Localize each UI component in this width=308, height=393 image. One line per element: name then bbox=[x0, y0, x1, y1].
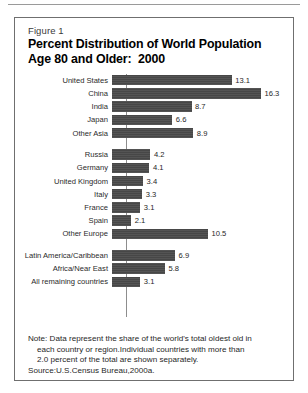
bar-value-label: 4.2 bbox=[154, 150, 165, 159]
bar-value-label: 6.9 bbox=[179, 251, 190, 260]
bar-value-label: 3.1 bbox=[144, 277, 155, 286]
bar-category-label: Latin America/Caribbean bbox=[15, 251, 112, 260]
bar-row[interactable]: Latin America/Caribbean6.9 bbox=[15, 249, 293, 262]
bar-category-label: Japan bbox=[15, 115, 112, 124]
bar[interactable] bbox=[112, 263, 165, 273]
bar-row[interactable]: Other Europe10.5 bbox=[15, 227, 293, 240]
bar-value-label: 8.7 bbox=[195, 102, 206, 111]
bar-category-label: India bbox=[15, 102, 112, 111]
bar-value-label: 3.4 bbox=[147, 177, 158, 186]
bar-category-label: United Kingdom bbox=[15, 177, 112, 186]
bar[interactable] bbox=[112, 176, 143, 186]
bar-track: 6.6 bbox=[112, 114, 293, 127]
bar-track: 16.3 bbox=[112, 87, 293, 100]
bar-row[interactable]: Africa/Near East5.8 bbox=[15, 262, 293, 275]
bar-row[interactable]: China16.3 bbox=[15, 87, 293, 100]
bar-category-label: Africa/Near East bbox=[15, 264, 112, 273]
bar[interactable] bbox=[112, 277, 140, 287]
figure-note: Note: Data represent the share of the wo… bbox=[28, 334, 284, 376]
bar[interactable] bbox=[112, 128, 193, 138]
bar-row[interactable]: Spain2.1 bbox=[15, 214, 293, 227]
bar[interactable] bbox=[112, 250, 175, 260]
bar[interactable] bbox=[112, 75, 232, 85]
bar-value-label: 3.3 bbox=[146, 190, 157, 199]
figure-title: Percent Distribution of World Population… bbox=[28, 37, 286, 66]
bar-row[interactable]: Japan6.6 bbox=[15, 114, 293, 127]
bar[interactable] bbox=[112, 189, 142, 199]
bar-category-label: Other Europe bbox=[15, 229, 112, 238]
bar[interactable] bbox=[112, 115, 172, 125]
bar-track: 5.8 bbox=[112, 262, 293, 275]
bar-category-label: France bbox=[15, 203, 112, 212]
bar-value-label: 4.1 bbox=[153, 163, 164, 172]
bar-value-label: 6.6 bbox=[176, 115, 187, 124]
bar-row[interactable]: Germany4.1 bbox=[15, 162, 293, 175]
bar-row[interactable]: Russia4.2 bbox=[15, 148, 293, 161]
bar-group: Russia4.2Germany4.1United Kingdom3.4Ital… bbox=[15, 148, 293, 240]
bar-track: 3.3 bbox=[112, 188, 293, 201]
figure-number-label: Figure 1 bbox=[28, 25, 64, 36]
bar[interactable] bbox=[112, 163, 149, 173]
bar-track: 8.9 bbox=[112, 127, 293, 140]
bar-row[interactable]: United States13.1 bbox=[15, 74, 293, 87]
bar[interactable] bbox=[112, 202, 140, 212]
bar[interactable] bbox=[112, 101, 192, 111]
note-line-1: Note: Data represent the share of the wo… bbox=[28, 334, 284, 345]
bar-value-label: 13.1 bbox=[235, 76, 250, 85]
bar-value-label: 10.5 bbox=[211, 229, 226, 238]
bar-track: 2.1 bbox=[112, 214, 293, 227]
bar-value-label: 5.8 bbox=[169, 264, 180, 273]
bar-category-label: All remaining countries bbox=[15, 277, 112, 286]
bar-group: United States13.1China16.3India8.7Japan6… bbox=[15, 74, 293, 139]
bar-value-label: 2.1 bbox=[135, 216, 146, 225]
bar-category-label: Russia bbox=[15, 150, 112, 159]
bar-row[interactable]: France3.1 bbox=[15, 201, 293, 214]
figure-frame: Figure 1 Percent Distribution of World P… bbox=[14, 17, 294, 381]
bar-track: 6.9 bbox=[112, 249, 293, 262]
bar-track: 3.4 bbox=[112, 175, 293, 188]
bar[interactable] bbox=[112, 229, 208, 239]
bar-row[interactable]: India8.7 bbox=[15, 100, 293, 113]
bar-row[interactable]: Other Asia8.9 bbox=[15, 127, 293, 140]
top-divider-rule bbox=[8, 4, 300, 5]
figure-title-line-1: Percent Distribution of World Population bbox=[28, 37, 286, 52]
bar-row[interactable]: United Kingdom3.4 bbox=[15, 175, 293, 188]
note-source-line: Source:U.S.Census Bureau,2000a. bbox=[28, 366, 284, 377]
figure-page: Figure 1 Percent Distribution of World P… bbox=[0, 0, 308, 393]
bar-value-label: 8.9 bbox=[197, 129, 208, 138]
figure-title-line-2: Age 80 and Older: 2000 bbox=[28, 52, 286, 67]
bar-track: 10.5 bbox=[112, 227, 293, 240]
bar-value-label: 3.1 bbox=[144, 203, 155, 212]
bar-row[interactable]: Italy3.3 bbox=[15, 188, 293, 201]
bar-track: 3.1 bbox=[112, 275, 293, 288]
bar-track: 13.1 bbox=[112, 74, 293, 87]
note-line-2: each country or region.Individual countr… bbox=[28, 345, 284, 356]
bar-value-label: 16.3 bbox=[265, 89, 280, 98]
note-line-3: 2.0 percent of the total are shown separ… bbox=[28, 355, 284, 366]
bar-track: 4.1 bbox=[112, 162, 293, 175]
bar[interactable] bbox=[112, 88, 261, 98]
bar-track: 4.2 bbox=[112, 148, 293, 161]
bar[interactable] bbox=[112, 149, 150, 159]
bar-category-label: United States bbox=[15, 76, 112, 85]
bar-category-label: China bbox=[15, 89, 112, 98]
bar-track: 3.1 bbox=[112, 201, 293, 214]
bar-chart: United States13.1China16.3India8.7Japan6… bbox=[15, 74, 293, 288]
bar-category-label: Germany bbox=[15, 163, 112, 172]
bar-track: 8.7 bbox=[112, 100, 293, 113]
bar-row[interactable]: All remaining countries3.1 bbox=[15, 275, 293, 288]
bar[interactable] bbox=[112, 215, 131, 225]
bar-category-label: Other Asia bbox=[15, 129, 112, 138]
bar-category-label: Italy bbox=[15, 190, 112, 199]
bar-category-label: Spain bbox=[15, 216, 112, 225]
bar-group: Latin America/Caribbean6.9Africa/Near Ea… bbox=[15, 249, 293, 288]
